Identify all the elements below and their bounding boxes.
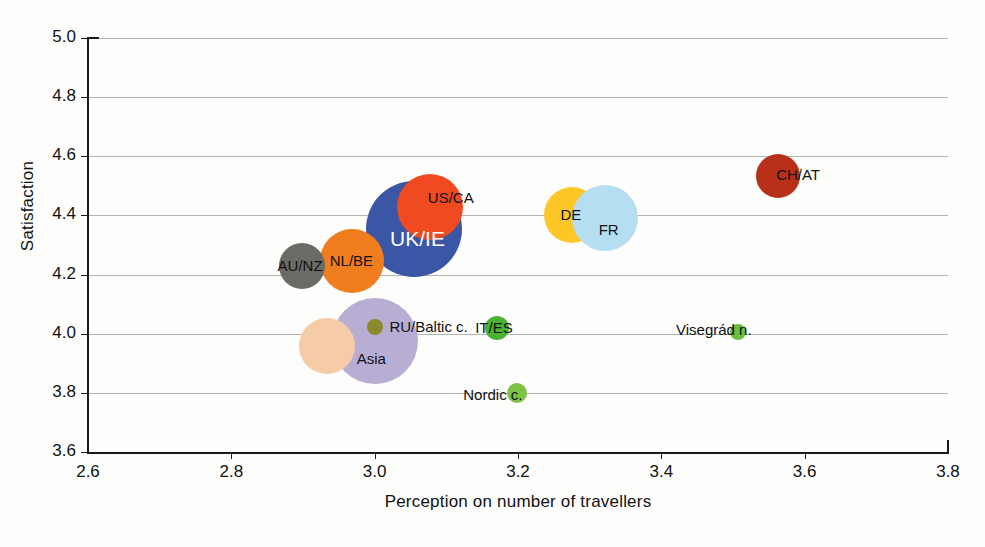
gridline	[88, 97, 948, 98]
bubble-label-nl-be: NL/BE	[330, 252, 373, 269]
y-axis-title: Satisfaction	[18, 116, 38, 296]
bubble-label-au-nz: AU/NZ	[278, 257, 323, 274]
x-axis-tick-label: 2.6	[58, 462, 118, 482]
bubble-label-fr: FR	[599, 221, 619, 238]
x-axis-title: Perception on number of travellers	[88, 492, 948, 512]
y-axis-tick-label: 4.0	[28, 323, 76, 343]
y-axis-tick-label: 5.0	[28, 27, 76, 47]
gridline	[88, 275, 948, 276]
bubble-label-it-es: IT/ES	[475, 319, 513, 336]
y-axis-tick-label: 3.6	[28, 441, 76, 461]
y-axis-top-cap	[87, 37, 99, 39]
x-axis-tick-label: 3.2	[488, 462, 548, 482]
bubble-label-de: DE	[560, 206, 581, 223]
gridline	[88, 38, 948, 39]
bubble-label-asia: Asia	[357, 350, 386, 367]
x-axis-line	[87, 452, 949, 454]
y-axis-tick-label: 3.8	[28, 382, 76, 402]
gridline	[88, 334, 948, 335]
x-axis-tick-label: 2.8	[201, 462, 261, 482]
x-axis-tick-label: 3.8	[918, 462, 978, 482]
x-axis-tick-label: 3.4	[631, 462, 691, 482]
bubble-fr[interactable]	[572, 185, 638, 251]
bubble-chart: 3.63.84.04.24.44.64.85.0 2.62.83.03.23.4…	[0, 0, 985, 547]
x-axis-right-cap	[947, 440, 949, 454]
bubble-label-uk-ie: UK/IE	[390, 227, 445, 251]
x-axis-tick-label: 3.0	[345, 462, 405, 482]
bubble-label-ru-baltic-c: RU/Baltic c.	[389, 318, 467, 335]
bubble-label-visegr-d-n: Visegrád n.	[676, 321, 752, 338]
x-axis-tick-label: 3.6	[775, 462, 835, 482]
y-axis-line	[87, 38, 89, 453]
y-axis-tick-label: 4.8	[28, 86, 76, 106]
bubble-unlabeled-5[interactable]	[299, 318, 355, 374]
gridline	[88, 156, 948, 157]
gridline	[88, 215, 948, 216]
bubble-label-nordic-c: Nordic c.	[463, 386, 522, 403]
bubble-label-us-ca: US/CA	[428, 189, 474, 206]
bubble-label-ch-at: CH/AT	[776, 166, 820, 183]
